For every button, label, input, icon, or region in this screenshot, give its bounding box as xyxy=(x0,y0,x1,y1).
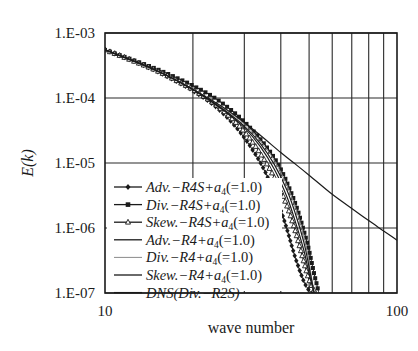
legend-label: Adv.−R4S+a4(=1.0) xyxy=(145,179,262,197)
triangle-marker-icon xyxy=(300,253,305,258)
diamond-marker-icon xyxy=(291,248,295,254)
diamond-marker-icon xyxy=(294,258,298,264)
square-marker-icon xyxy=(208,93,212,97)
x-axis-ticks: 10100 xyxy=(98,303,409,319)
square-marker-icon xyxy=(221,102,225,106)
triangle-marker-icon xyxy=(283,198,288,203)
diamond-marker-icon xyxy=(298,268,302,274)
triangle-marker-icon xyxy=(294,233,299,238)
y-tick-label: 1.E-05 xyxy=(55,155,95,171)
square-marker-icon xyxy=(126,202,131,207)
y-tick-label: 1.E-04 xyxy=(55,90,96,106)
triangle-marker-icon xyxy=(298,248,303,253)
legend-label: Adv.−R4+a4(=1.0) xyxy=(145,232,255,250)
square-marker-icon xyxy=(311,266,315,270)
triangle-marker-icon xyxy=(297,243,302,248)
x-tick-label: 100 xyxy=(386,303,409,319)
diamond-marker-icon xyxy=(285,228,289,234)
y-tick-label: 1.E-07 xyxy=(55,285,96,301)
y-axis-label: E(k) xyxy=(19,149,37,178)
square-marker-icon xyxy=(312,271,316,275)
y-tick-label: 1.E-06 xyxy=(55,220,96,236)
diamond-marker-icon xyxy=(299,273,303,279)
square-marker-icon xyxy=(313,276,317,280)
square-marker-icon xyxy=(310,261,314,265)
legend-label: Skew.−R4+a4(=1.0) xyxy=(146,267,262,285)
square-marker-icon xyxy=(217,99,221,103)
energy-spectrum-chart: Adv.−R4S+a4(=1.0)Div.−R4S+a4(=1.0)Skew.−… xyxy=(0,0,418,351)
x-tick-label: 10 xyxy=(98,303,113,319)
diamond-marker-icon xyxy=(293,253,297,259)
square-marker-icon xyxy=(309,256,313,260)
diamond-marker-icon xyxy=(296,263,300,269)
y-tick-label: 1.E-03 xyxy=(55,25,95,41)
legend-label: Div.−R4+a4(=1.0) xyxy=(145,249,253,267)
triangle-marker-icon xyxy=(296,238,301,243)
diamond-marker-icon xyxy=(288,238,292,244)
x-axis-label: wave number xyxy=(208,319,295,336)
diamond-marker-icon xyxy=(282,218,286,224)
square-marker-icon xyxy=(212,96,216,100)
y-axis-ticks: 1.E-031.E-041.E-051.E-061.E-07 xyxy=(55,25,96,301)
legend-label: Skew.−R4S+a4(=1.0) xyxy=(146,214,269,232)
square-marker-icon xyxy=(308,251,312,255)
square-marker-icon xyxy=(225,105,229,109)
square-marker-icon xyxy=(315,281,319,285)
diamond-marker-icon xyxy=(301,278,305,284)
square-marker-icon xyxy=(316,286,320,290)
legend-label: Div.−R4S+a4(=1.0) xyxy=(145,197,261,215)
diamond-marker-icon xyxy=(290,243,294,249)
diamond-marker-icon xyxy=(287,233,291,239)
